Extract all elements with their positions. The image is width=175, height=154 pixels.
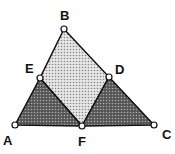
label-F: F: [78, 134, 86, 149]
label-E: E: [25, 61, 34, 76]
point-B: [61, 26, 67, 32]
label-A: A: [3, 133, 13, 148]
geometry-diagram: B E D A F C: [0, 0, 175, 154]
label-B: B: [60, 8, 69, 23]
point-E: [37, 75, 43, 81]
label-C: C: [162, 127, 172, 142]
point-F: [79, 123, 85, 129]
point-C: [151, 122, 157, 128]
label-D: D: [115, 62, 124, 77]
point-D: [106, 74, 112, 80]
point-A: [12, 122, 18, 128]
